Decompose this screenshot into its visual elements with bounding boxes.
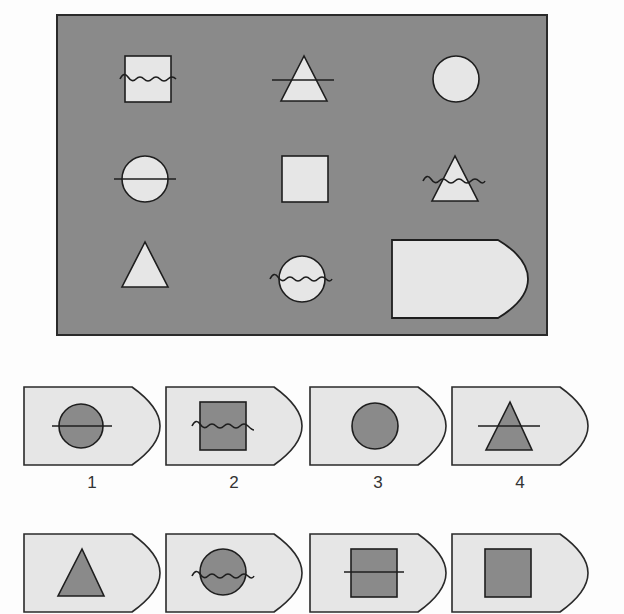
option-tile bbox=[308, 385, 448, 467]
option-tile bbox=[164, 385, 304, 467]
option-4[interactable]: 4 bbox=[450, 385, 590, 467]
answer-blank-tile[interactable] bbox=[390, 238, 530, 320]
option-label: 4 bbox=[450, 473, 590, 493]
square-icon bbox=[280, 154, 330, 204]
option-tile bbox=[22, 532, 162, 614]
matrix-cell-circle-wave bbox=[270, 254, 334, 304]
matrix-cell-square bbox=[280, 154, 330, 204]
blank-tile-shape bbox=[390, 238, 530, 320]
option-tile bbox=[308, 532, 448, 614]
option-tile bbox=[164, 532, 304, 614]
matrix-cell-triangle-wave bbox=[423, 154, 487, 204]
triangle-icon bbox=[120, 240, 170, 290]
matrix-cell-circle-line bbox=[114, 154, 178, 204]
circle-icon bbox=[431, 54, 481, 104]
option-8[interactable] bbox=[450, 532, 590, 614]
option-tile bbox=[450, 532, 590, 614]
triangle-line-icon bbox=[272, 54, 336, 104]
circle-line-icon bbox=[114, 154, 178, 204]
option-label: 1 bbox=[22, 473, 162, 493]
matrix-cell-circle bbox=[431, 54, 481, 104]
option-tile bbox=[22, 385, 162, 467]
matrix-cell-triangle-line bbox=[272, 54, 336, 104]
matrix-cell-triangle bbox=[120, 240, 170, 290]
option-7[interactable] bbox=[308, 532, 448, 614]
option-label: 2 bbox=[164, 473, 304, 493]
option-3[interactable]: 3 bbox=[308, 385, 448, 467]
circle-wave-icon bbox=[270, 254, 334, 304]
option-label: 3 bbox=[308, 473, 448, 493]
option-2[interactable]: 2 bbox=[164, 385, 304, 467]
option-6[interactable] bbox=[164, 532, 304, 614]
square-wave-icon bbox=[120, 54, 180, 104]
matrix-cell-square-wave bbox=[120, 54, 180, 104]
option-5[interactable] bbox=[22, 532, 162, 614]
triangle-wave-icon bbox=[423, 154, 487, 204]
option-1[interactable]: 1 bbox=[22, 385, 162, 467]
puzzle-matrix bbox=[56, 14, 548, 336]
option-tile bbox=[450, 385, 590, 467]
